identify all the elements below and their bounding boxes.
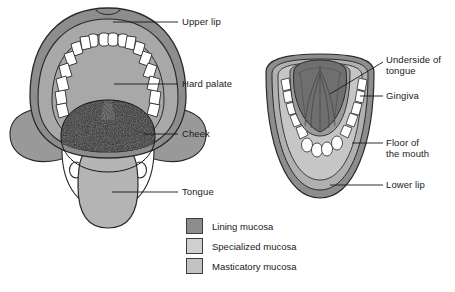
legend-item-masticatory-mucosa: Masticatory mucosa: [186, 256, 297, 276]
label-hard-palate: Hard palate: [182, 78, 232, 89]
tooth-canine: [302, 138, 313, 152]
tooth-incisor: [108, 33, 118, 46]
tooth-incisor: [99, 33, 109, 46]
tooth-incisor: [322, 142, 333, 156]
tooth-molar: [355, 90, 365, 103]
legend-item-specialized-mucosa: Specialized mucosa: [186, 236, 297, 256]
legend-swatch-specialized-mucosa: [186, 238, 203, 254]
tooth-incisor: [312, 143, 323, 157]
legend-label-specialized-mucosa: Specialized mucosa: [212, 241, 297, 252]
legend-label-lining-mucosa: Lining mucosa: [212, 221, 273, 232]
legend-swatch-lining-mucosa: [186, 218, 203, 234]
legend-item-lining-mucosa: Lining mucosa: [186, 216, 297, 236]
label-floor-of-the-mouth: Floor of the mouth: [386, 137, 429, 159]
tooth-canine: [332, 136, 343, 150]
tongue-protruding: [78, 150, 138, 228]
label-upper-lip: Upper lip: [182, 16, 221, 27]
legend-swatch-masticatory-mucosa: [186, 258, 203, 274]
mucosa-legend: Lining mucosa Specialized mucosa Mastica…: [186, 216, 297, 276]
label-tongue: Tongue: [182, 186, 214, 197]
label-lower-lip: Lower lip: [386, 179, 425, 190]
label-gingiva: Gingiva: [386, 90, 419, 101]
tooth-molar: [357, 78, 367, 91]
legend-label-masticatory-mucosa: Masticatory mucosa: [212, 261, 296, 272]
tooth-molar: [281, 78, 291, 91]
label-cheek: Cheek: [182, 128, 210, 139]
label-underside-of-tongue: Underside of tongue: [386, 54, 441, 76]
